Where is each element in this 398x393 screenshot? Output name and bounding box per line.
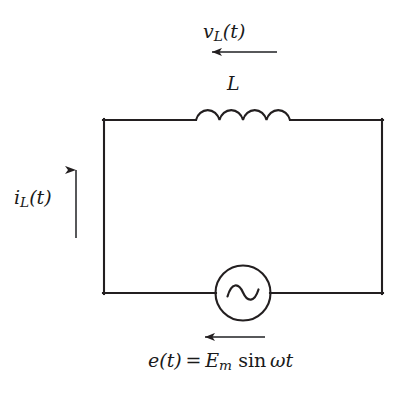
- inductor-current-label: iL(t): [14, 188, 52, 210]
- equals-glyph: =: [186, 349, 202, 371]
- sine-wave-icon: [228, 285, 259, 299]
- omega-symbol: ω: [270, 349, 286, 371]
- ac-source: [216, 266, 271, 321]
- inductor-label: L: [227, 74, 240, 93]
- circuit-schematic-svg: [0, 0, 398, 393]
- amplitude-subscript: m: [219, 357, 232, 373]
- current-argument: (t): [29, 186, 51, 208]
- source-symbol: e: [148, 349, 159, 371]
- current-subscript: L: [20, 194, 29, 210]
- source-argument: (t): [159, 349, 181, 371]
- sine-function: sin: [238, 349, 266, 371]
- circuit-diagram-canvas: vL(t) L iL(t) e(t) = Em sin ωt: [0, 0, 398, 393]
- voltage-subscript: L: [214, 28, 223, 44]
- inductor-coil: [196, 110, 290, 120]
- inductor-voltage-label: vL(t): [203, 22, 245, 44]
- time-symbol: t: [286, 349, 294, 371]
- voltage-symbol: v: [203, 20, 214, 42]
- voltage-argument: (t): [223, 20, 245, 42]
- source-voltage-equation: e(t) = Em sin ωt: [148, 351, 293, 373]
- amplitude-symbol: E: [205, 349, 219, 371]
